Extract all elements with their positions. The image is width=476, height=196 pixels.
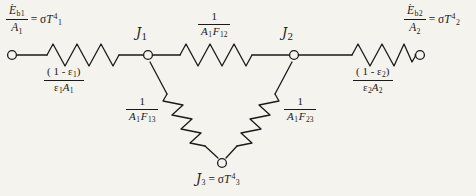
wire-j1-diag-lead [150,62,167,94]
space-12-den-A-sub: 1 [208,30,212,39]
space-13-den-A-sub: 1 [136,115,140,124]
dot-accent-left: · [11,0,14,11]
space-23-den-F: F [299,110,306,122]
source-left-E-sub-1: 1 [20,9,24,18]
source-right-equals: = [429,13,436,25]
resistor-space-23 [237,94,279,146]
space-12-den-A: A [201,25,208,37]
resistor-label-space-23: 1 A1 F23 [284,96,316,123]
surface-left-numerator: ( 1 - ε1) [44,66,84,81]
source-right-numerator: ·Eb2 [404,4,426,20]
surface-right-num-close: ) [386,65,390,77]
node-j1-sub: 1 [141,30,147,42]
source-label-left: ·Eb1 A1 = σT41 [6,4,62,36]
surface-left-num-close: ) [77,65,81,77]
node-j1 [144,51,153,60]
source-right-E-sub-2: 2 [418,9,422,18]
space-23-denominator: A1 F23 [284,110,316,124]
surface-left-denominator: ε1A1 [44,81,84,95]
node-j3 [218,159,227,168]
space-23-numerator: 1 [284,96,316,110]
resistor-surface-left [47,44,119,66]
node-j3-sub: 3 [201,178,205,187]
wire-diag23-to-j3 [226,146,237,158]
resistor-space-13 [163,94,205,146]
node-j2 [290,51,299,60]
space-12-denominator: A1 F12 [198,25,230,39]
source-right-T-exp: 4 [451,12,456,21]
surface-left-fraction: ( 1 - ε1) ε1A1 [44,66,84,95]
space-13-den-A: A [129,110,136,122]
space-13-numerator: 1 [126,96,158,110]
source-left-fraction: ·Eb1 A1 [6,4,28,36]
resistor-label-space-13: 1 A1 F13 [126,96,158,123]
space-13-denominator: A1 F13 [126,110,158,124]
terminal-right [416,51,425,60]
surface-right-num-text: ( 1 - ε [356,65,382,77]
source-right-equation: = σT42 [426,13,460,28]
node-j2-sub: 2 [287,30,293,42]
node-label-j3: J3 = σT43 [196,172,240,187]
space-13-den-F-sub: 13 [148,115,156,124]
source-left-equals: = [31,13,38,25]
source-right-fraction: ·Eb2 A2 [404,4,426,36]
source-left-equation: = σT41 [28,13,62,28]
source-left-T: T [46,13,52,25]
space-12-fraction: 1 A1 F12 [198,11,230,38]
node-j3-equals: = [208,173,215,185]
surface-right-denominator: ε2A2 [353,81,393,95]
resistor-label-surface-left: ( 1 - ε1) ε1A1 [44,66,84,95]
surface-right-den-eps: ε [363,81,368,93]
resistor-space-12 [180,44,252,66]
space-23-den-F-sub: 23 [306,115,314,124]
space-13-fraction: 1 A1 F13 [126,96,158,123]
surface-left-num-text: ( 1 - ε [47,65,73,77]
space-13-den-F: F [141,110,148,122]
surface-right-fraction: ( 1 - ε2) ε2A2 [353,66,393,95]
resistor-label-space-12: 1 A1 F12 [198,11,230,38]
source-right-T-sub: 2 [456,18,460,27]
source-right-denominator: A2 [404,20,426,35]
resistor-surface-right [352,44,416,66]
space-12-den-F-sub: 12 [220,30,228,39]
source-left-A-sub: 1 [18,27,22,36]
space-23-den-A-sub: 1 [294,115,298,124]
node-label-j2: J2 [282,24,293,42]
source-left-denominator: A1 [6,20,28,35]
terminal-left [8,51,17,60]
space-12-numerator: 1 [198,11,230,25]
source-left-T-sub: 1 [58,18,62,27]
dot-accent-right: · [409,0,412,11]
space-12-den-F: F [213,25,220,37]
surface-right-numerator: ( 1 - ε2) [353,66,393,81]
surface-right-den-A-sub: 2 [378,86,382,95]
radiation-network-figure: ·Eb1 A1 = σT41 ·Eb2 A2 = σT42 ( 1 - ε1) … [0,0,476,196]
source-left-T-exp: 4 [53,12,58,21]
wire-j2-diag-lead [275,62,292,94]
source-right-A-sub: 2 [416,27,420,36]
wire-diag13-to-j3 [205,146,218,158]
source-right-T: T [444,13,450,25]
source-label-right: ·Eb2 A2 = σT42 [404,4,460,36]
source-left-numerator: ·Eb1 [6,4,28,20]
surface-left-den-A-sub: 1 [69,86,73,95]
resistor-label-surface-right: ( 1 - ε2) ε2A2 [353,66,393,95]
surface-left-den-eps: ε [54,81,59,93]
node-label-j1: J1 [136,24,147,42]
space-23-fraction: 1 A1 F23 [284,96,316,123]
node-j3-T-sub: 3 [235,178,239,187]
space-23-den-A: A [287,110,294,122]
